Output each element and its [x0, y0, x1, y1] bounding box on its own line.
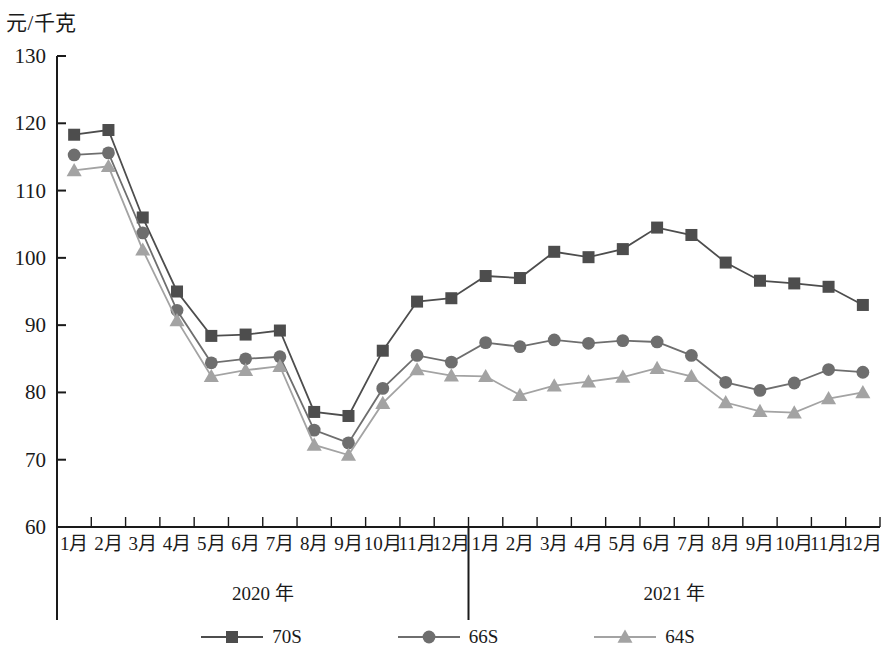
x-axis-month-label: 5月: [197, 528, 226, 555]
x-axis-month-label: 8月: [300, 528, 329, 555]
x-axis-month-label: 2月: [94, 528, 123, 555]
x-axis-month-label: 7月: [266, 528, 295, 555]
data-point: [754, 275, 766, 287]
data-point: [651, 222, 663, 234]
data-point: [171, 286, 183, 298]
data-point: [548, 334, 561, 347]
data-point: [583, 251, 595, 263]
x-axis-month-label: 2月: [506, 528, 535, 555]
plot-area: [0, 0, 896, 658]
legend-label: 66S: [469, 626, 499, 648]
data-point: [307, 438, 322, 451]
data-point: [514, 340, 527, 353]
series-line: [74, 153, 863, 443]
data-point: [205, 330, 217, 342]
data-point: [411, 349, 424, 362]
data-point: [754, 384, 767, 397]
x-axis-month-label: 12月: [432, 528, 470, 555]
data-point: [445, 292, 457, 304]
data-point: [856, 366, 869, 379]
x-axis-month-label: 10月: [775, 528, 813, 555]
data-point: [68, 129, 80, 141]
legend-label: 70S: [272, 626, 302, 648]
data-point: [651, 336, 664, 349]
data-point: [410, 362, 425, 375]
data-point: [548, 246, 560, 258]
x-axis-month-label: 6月: [643, 528, 672, 555]
x-axis-month-label: 8月: [711, 528, 740, 555]
legend-item-70s[interactable]: 70S: [201, 626, 302, 648]
x-axis-month-label: 3月: [540, 528, 569, 555]
data-point: [855, 385, 870, 398]
data-point: [720, 257, 732, 269]
data-point: [240, 329, 252, 341]
data-point: [823, 281, 835, 293]
legend-marker-circle-icon: [398, 627, 460, 647]
series-70s: [68, 124, 869, 422]
data-point: [822, 363, 835, 376]
chart-legend: 70S66S64S: [0, 626, 896, 648]
data-point: [514, 272, 526, 284]
data-point: [308, 406, 320, 418]
data-point: [480, 270, 492, 282]
data-point: [616, 334, 629, 347]
series-line: [74, 130, 863, 416]
series-66s: [68, 146, 870, 449]
data-point: [857, 299, 869, 311]
data-point: [719, 376, 732, 389]
legend-marker-triangle-icon: [594, 627, 656, 647]
x-axis-month-label: 1月: [471, 528, 500, 555]
legend-marker-square-icon: [201, 627, 263, 647]
data-point: [376, 382, 389, 395]
data-point: [617, 243, 629, 255]
x-axis-month-label: 11月: [398, 528, 435, 555]
data-point: [788, 377, 801, 390]
data-point: [272, 359, 287, 372]
x-axis-month-label: 9月: [746, 528, 775, 555]
data-point: [68, 149, 81, 162]
x-axis-month-label: 4月: [163, 528, 192, 555]
data-point: [445, 356, 458, 369]
x-axis-month-label: 10月: [364, 528, 402, 555]
data-point: [479, 336, 492, 349]
x-axis-month-label: 5月: [609, 528, 638, 555]
x-axis-month-label: 9月: [334, 528, 363, 555]
data-point: [411, 296, 423, 308]
data-point: [274, 325, 286, 337]
x-axis-month-label: 6月: [231, 528, 260, 555]
legend-label: 64S: [665, 626, 695, 648]
x-axis-month-label: 3月: [128, 528, 157, 555]
x-axis-month-label: 11月: [810, 528, 847, 555]
data-point: [718, 395, 733, 408]
data-point: [377, 345, 389, 357]
data-point: [102, 124, 114, 136]
x-axis-month-label: 4月: [574, 528, 603, 555]
data-point: [650, 361, 665, 374]
legend-item-66s[interactable]: 66S: [398, 626, 499, 648]
series-64s: [67, 159, 871, 461]
data-point: [342, 410, 354, 422]
x-axis-month-label: 12月: [844, 528, 882, 555]
data-point: [685, 349, 698, 362]
data-point: [788, 277, 800, 289]
x-axis-year-label: 2021 年: [643, 578, 705, 605]
x-axis-year-label: 2020 年: [232, 578, 294, 605]
line-chart: 元/千克 60708090100110120130 1月2月3月4月5月6月7月…: [0, 0, 896, 658]
data-point: [685, 229, 697, 241]
x-axis-month-label: 7月: [677, 528, 706, 555]
data-point: [102, 146, 115, 159]
data-point: [582, 337, 595, 350]
legend-item-64s[interactable]: 64S: [594, 626, 695, 648]
x-axis-month-label: 1月: [60, 528, 89, 555]
